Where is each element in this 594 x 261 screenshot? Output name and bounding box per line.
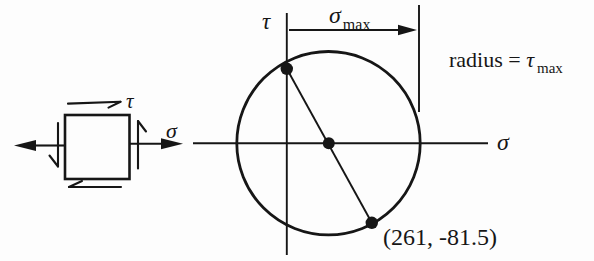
figure-canvas: τ σ σmax τ σ [0, 0, 594, 261]
top-stress-point [281, 63, 293, 75]
shear-arrow-left-barb [50, 156, 59, 167]
sigma-arrow-left-head [14, 140, 36, 151]
mohr-circle-figure: τ σ σmax τ σ [0, 0, 594, 261]
center-point [323, 137, 335, 149]
tau-axis-label: τ [262, 9, 271, 34]
sigma-max-arrow-head [398, 25, 417, 35]
sigma-axis-label: σ [497, 129, 510, 155]
shear-arrow-bottom [69, 181, 121, 187]
mohr-diagram: σmax τ σ radius = τmax (261, -81.5) [193, 2, 563, 255]
element-tau-label: τ [126, 89, 135, 113]
shear-arrow-right-barb [138, 121, 146, 132]
radius-note: radius = τmax [449, 47, 563, 76]
stress-element: τ σ [14, 89, 183, 187]
stress-element-square [65, 115, 130, 179]
point-coordinates-label: (261, -81.5) [383, 224, 497, 250]
bottom-stress-point [366, 217, 378, 229]
element-sigma-label: σ [166, 118, 178, 143]
sigma-max-label: σmax [329, 2, 370, 33]
shear-arrow-top [68, 102, 121, 108]
